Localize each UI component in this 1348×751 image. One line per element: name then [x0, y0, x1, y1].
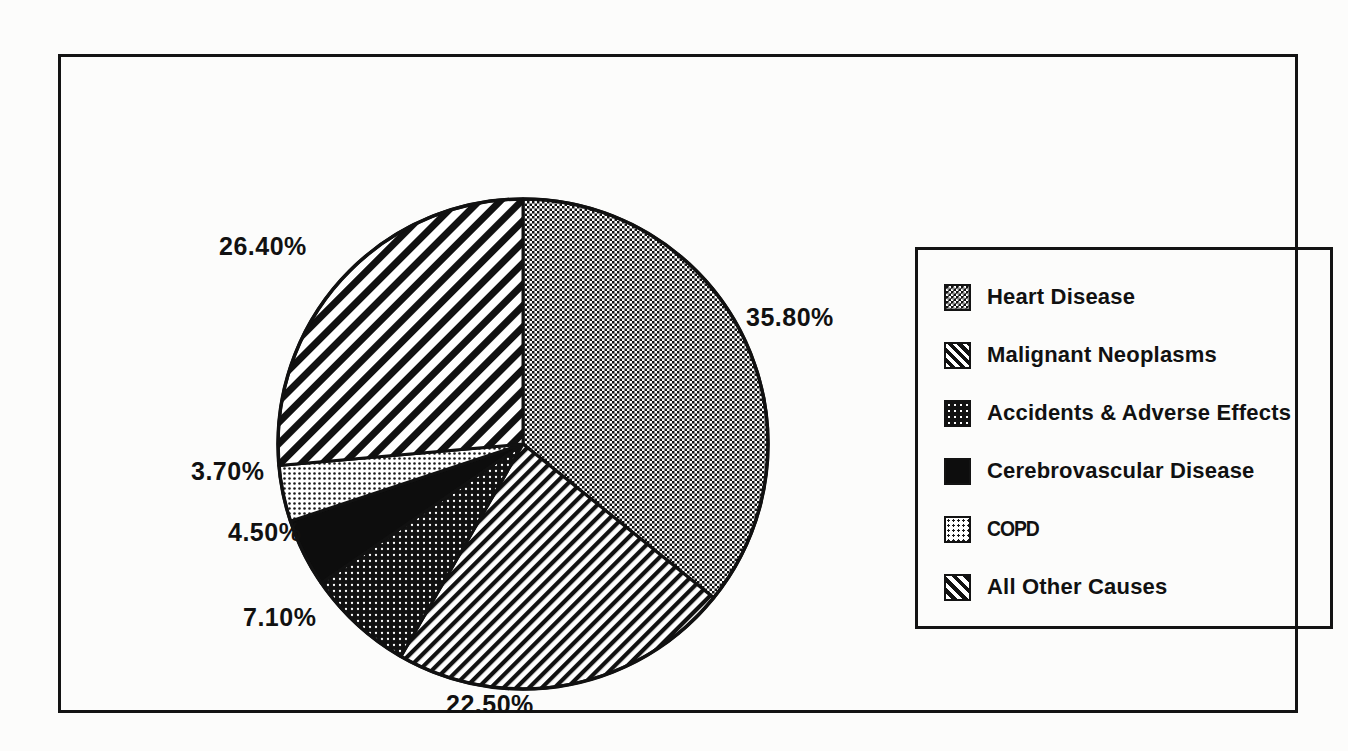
legend-swatch-icon-copd	[944, 516, 971, 543]
legend-label-heart-disease: Heart Disease	[987, 284, 1135, 310]
legend-swatch-icon-all-other-causes	[944, 574, 971, 601]
pie-chart	[277, 186, 769, 694]
legend-label-copd: COPD	[987, 516, 1039, 542]
legend-item-accidents: Accidents & Adverse Effects	[944, 384, 1324, 442]
legend-item-cerebrovascular-disease: Cerebrovascular Disease	[944, 442, 1324, 500]
legend-swatch-icon-accidents	[944, 400, 971, 427]
legend-item-heart-disease: Heart Disease	[944, 268, 1324, 326]
chart-frame: 35.80% 22.50% 7.10% 4.50% 3.70% 26.40% H…	[58, 54, 1298, 713]
legend-item-copd: COPD	[944, 500, 1324, 558]
pie-slices	[278, 199, 768, 689]
legend-item-malignant-neoplasms: Malignant Neoplasms	[944, 326, 1324, 384]
legend-swatch-icon-cerebrovascular-disease	[944, 458, 971, 485]
legend-label-cerebrovascular-disease: Cerebrovascular Disease	[987, 458, 1255, 484]
pie-label-heart-disease: 35.80%	[746, 303, 834, 332]
pie-label-malignant-neoplasms: 22.50%	[446, 690, 534, 719]
legend-label-accidents: Accidents & Adverse Effects	[987, 400, 1291, 426]
legend-item-list: Heart Disease Malignant Neoplasms Accide…	[944, 268, 1324, 616]
legend-swatch-icon-heart-disease	[944, 284, 971, 311]
pie-label-accidents: 7.10%	[243, 603, 316, 632]
legend-label-all-other-causes: All Other Causes	[987, 574, 1167, 600]
pie-label-all-other-causes: 26.40%	[219, 232, 307, 261]
pie-slice	[278, 199, 523, 466]
pie-label-copd: 3.70%	[191, 457, 264, 486]
pie-label-cerebrovascular: 4.50%	[228, 518, 301, 547]
legend-item-all-other-causes: All Other Causes	[944, 558, 1324, 616]
page-background: 35.80% 22.50% 7.10% 4.50% 3.70% 26.40% H…	[0, 0, 1348, 751]
legend-label-malignant-neoplasms: Malignant Neoplasms	[987, 342, 1217, 368]
legend: Heart Disease Malignant Neoplasms Accide…	[915, 247, 1333, 629]
legend-swatch-icon-malignant-neoplasms	[944, 342, 971, 369]
